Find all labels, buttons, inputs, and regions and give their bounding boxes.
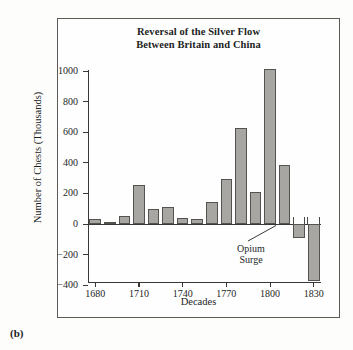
annotation-line-1: Opium [228, 243, 274, 254]
figure-panel: Reversal of the Silver Flow Between Brit… [0, 0, 353, 350]
annotation-line-2: Surge [228, 254, 274, 265]
panel-label: (b) [10, 327, 23, 339]
annotation-leader-line [0, 0, 353, 350]
annotation-opium-surge: Opium Surge [228, 243, 274, 265]
